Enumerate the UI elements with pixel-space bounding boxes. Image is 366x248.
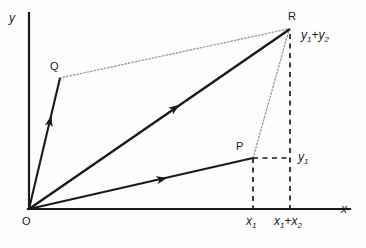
point-label-q: Q <box>50 61 59 72</box>
vector-diagram-figure: y x O Q P R y1 y1+y2 x1 x1+x2 <box>0 0 366 248</box>
point-label-p: P <box>236 141 243 152</box>
coordinate-label-y1-plus-y2: y1+y2 <box>301 29 329 41</box>
point-label-r: R <box>288 11 296 22</box>
y-axis-label: y <box>9 12 15 24</box>
y1-sub: 1 <box>304 157 308 166</box>
vector-op-shaft <box>29 158 253 209</box>
x1-sub: 1 <box>252 221 256 230</box>
x1x2-term2-sub: 2 <box>297 221 301 230</box>
x-axis-label: x <box>341 203 347 215</box>
construction-line-pr <box>253 30 289 158</box>
coordinate-label-y1: y1 <box>298 151 308 163</box>
coordinate-label-x1: x1 <box>246 215 256 227</box>
coordinate-label-x1-plus-x2: x1+x2 <box>274 215 302 227</box>
point-label-o: O <box>22 216 31 227</box>
y1y2-term1-sub: 1 <box>307 35 311 44</box>
x1x2-term1-sub: 1 <box>280 221 284 230</box>
vector-oq-shaft <box>29 78 60 209</box>
y1y2-term2-sub: 2 <box>324 35 328 44</box>
